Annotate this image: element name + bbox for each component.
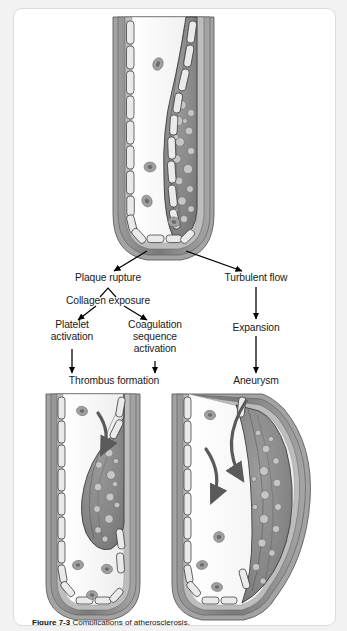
arrow-to-platelet-activation	[78, 306, 96, 320]
figure-caption: Figure 7-3 Complications of atherosclero…	[32, 618, 332, 626]
figure-caption-number: Figure 7-3	[32, 618, 70, 626]
node-coagulation-line3: activation	[134, 343, 177, 355]
node-coagulation-line1: Coagulation	[128, 319, 182, 331]
node-expansion: Expansion	[232, 322, 279, 334]
arrow-to-coagulation	[124, 306, 147, 320]
bottom-right-vessel-illustration	[172, 394, 310, 620]
figure-page: Plaque rupture Collagen exposure Platele…	[0, 0, 347, 631]
figure-card: Plaque rupture Collagen exposure Platele…	[13, 8, 336, 626]
node-plaque-rupture: Plaque rupture	[75, 272, 141, 284]
bottom-left-vessel-illustration	[46, 394, 140, 620]
top-vessel-illustration	[113, 17, 214, 260]
node-thrombus-formation: Thrombus formation	[69, 375, 159, 387]
node-collagen-exposure: Collagen exposure	[66, 295, 150, 307]
arrow-to-turbulent-flow	[186, 251, 242, 271]
node-turbulent-flow: Turbulent flow	[225, 272, 288, 284]
endothelium-left	[127, 21, 135, 216]
node-aneurysm: Aneurysm	[233, 375, 279, 387]
atherosclerosis-complications-illustration	[14, 9, 335, 625]
node-platelet-activation-line1: Platelet	[55, 319, 89, 331]
node-platelet-activation-line2: activation	[51, 331, 94, 343]
figure-caption-text: Complications of atherosclerosis.	[72, 618, 189, 626]
node-coagulation-line2: sequence	[133, 331, 177, 343]
